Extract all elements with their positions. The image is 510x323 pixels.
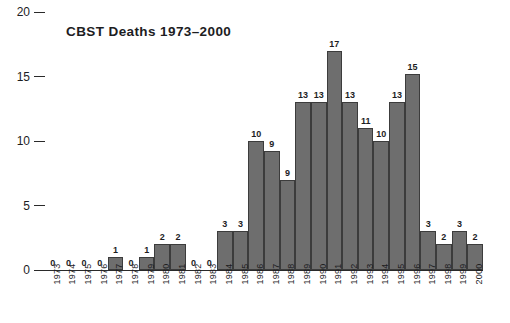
bar-value-label: 13 [311, 91, 327, 100]
bar-item[interactable]: 3 [452, 12, 468, 270]
y-axis-tick: 15 [0, 70, 45, 84]
x-axis-label-slot: 1980 [154, 272, 170, 322]
bar-item[interactable]: 0 [92, 12, 108, 270]
bar-item[interactable]: 9 [280, 12, 296, 270]
x-axis-label-slot: 1981 [170, 272, 186, 322]
bar-item[interactable]: 1 [139, 12, 155, 270]
bar-value-label: 1 [108, 246, 124, 255]
bar-rect[interactable] [342, 102, 358, 270]
bar-rect[interactable] [405, 74, 421, 270]
bar-value-label: 3 [420, 220, 436, 229]
bar-item[interactable]: 2 [154, 12, 170, 270]
y-axis-tick-label: 15 [17, 71, 30, 83]
bar-item[interactable]: 0 [201, 12, 217, 270]
bar-item[interactable]: 0 [45, 12, 61, 270]
x-axis-label-slot: 1998 [436, 272, 452, 322]
y-axis-tick-mark [34, 12, 45, 13]
bar-value-label: 11 [358, 117, 374, 126]
bar-value-label: 3 [452, 220, 468, 229]
x-axis-label-slot: 1989 [295, 272, 311, 322]
bar-item[interactable]: 13 [295, 12, 311, 270]
x-axis-label-slot: 1984 [217, 272, 233, 322]
bar-value-label: 13 [295, 91, 311, 100]
bar-item[interactable]: 2 [436, 12, 452, 270]
bar-item[interactable]: 0 [76, 12, 92, 270]
y-axis-tick-label: 5 [23, 200, 30, 212]
bar-item[interactable]: 3 [420, 12, 436, 270]
x-axis-label-slot: 1997 [420, 272, 436, 322]
bar-rect[interactable] [358, 128, 374, 270]
x-axis-label-slot: 1985 [233, 272, 249, 322]
y-axis-tick-label: 10 [17, 135, 30, 147]
bar-rect[interactable] [389, 102, 405, 270]
bar-value-label: 2 [154, 233, 170, 242]
bar-item[interactable]: 13 [389, 12, 405, 270]
x-axis-label-slot: 1993 [358, 272, 374, 322]
bar-item[interactable]: 11 [358, 12, 374, 270]
x-axis-label-slot: 1996 [405, 272, 421, 322]
x-axis-label-slot: 1995 [389, 272, 405, 322]
bar-item[interactable]: 0 [61, 12, 77, 270]
x-axis-label-slot: 1976 [92, 272, 108, 322]
y-axis-tick: 10 [0, 134, 45, 148]
bar-item[interactable]: 10 [373, 12, 389, 270]
bar-series: 0000101220033109913131713111013153232 [45, 12, 483, 270]
y-axis-tick-mark [34, 76, 45, 77]
bar-rect[interactable] [264, 151, 280, 270]
bar-item[interactable]: 9 [264, 12, 280, 270]
x-axis-labels: 1973197419751976197719781979198019811982… [45, 272, 483, 322]
bar-item[interactable]: 13 [311, 12, 327, 270]
bar-rect[interactable] [311, 102, 327, 270]
x-axis-label-slot: 2000 [467, 272, 483, 322]
y-axis-tick: 20 [0, 5, 45, 19]
bar-rect[interactable] [295, 102, 311, 270]
bar-item[interactable]: 10 [248, 12, 264, 270]
bar-value-label: 1 [139, 246, 155, 255]
bar-value-label: 3 [217, 220, 233, 229]
bar-value-label: 3 [233, 220, 249, 229]
bar-rect[interactable] [248, 141, 264, 270]
bar-item[interactable]: 2 [467, 12, 483, 270]
bar-value-label: 17 [327, 40, 343, 49]
bar-value-label: 10 [248, 130, 264, 139]
bar-item[interactable]: 15 [405, 12, 421, 270]
bar-rect[interactable] [373, 141, 389, 270]
y-axis-tick: 0 [0, 263, 45, 277]
y-axis-tick: 5 [0, 199, 45, 213]
bar-value-label: 9 [264, 140, 280, 149]
bar-item[interactable]: 2 [170, 12, 186, 270]
y-axis-tick-label: 0 [23, 264, 30, 276]
bar-item[interactable]: 0 [186, 12, 202, 270]
y-axis-tick-mark [34, 270, 45, 271]
x-axis-label-slot: 1994 [373, 272, 389, 322]
x-axis-label-slot: 1991 [327, 272, 343, 322]
plot-area: 0000101220033109913131713111013153232 [45, 12, 483, 270]
bar-item[interactable]: 0 [123, 12, 139, 270]
x-axis-label-slot: 1987 [264, 272, 280, 322]
y-axis-tick-mark [34, 141, 45, 142]
bar-rect[interactable] [327, 51, 343, 270]
x-axis-label-slot: 1978 [123, 272, 139, 322]
bar-value-label: 13 [389, 91, 405, 100]
x-axis-label-slot: 1975 [76, 272, 92, 322]
bar-value-label: 2 [467, 233, 483, 242]
bar-item[interactable]: 13 [342, 12, 358, 270]
y-axis-tick-mark [34, 205, 45, 206]
bar-item[interactable]: 1 [108, 12, 124, 270]
bar-item[interactable]: 3 [217, 12, 233, 270]
x-axis-label-slot: 1986 [248, 272, 264, 322]
x-axis-label-slot: 1999 [452, 272, 468, 322]
x-axis-label-slot: 1973 [45, 272, 61, 322]
y-axis-tick-label: 20 [17, 6, 30, 18]
x-axis-label-slot: 1990 [311, 272, 327, 322]
bar-rect[interactable] [280, 180, 296, 270]
x-axis-label-slot: 1992 [342, 272, 358, 322]
bar-item[interactable]: 3 [233, 12, 249, 270]
x-axis-label-slot: 1988 [280, 272, 296, 322]
bar-value-label: 2 [436, 233, 452, 242]
x-axis-tick-label: 2000 [475, 264, 484, 285]
x-axis-label-slot: 1977 [108, 272, 124, 322]
bar-item[interactable]: 17 [327, 12, 343, 270]
x-axis-label-slot: 1979 [139, 272, 155, 322]
bar-chart-figure: CBST Deaths 1973–2000 05101520 000010122… [0, 0, 510, 323]
